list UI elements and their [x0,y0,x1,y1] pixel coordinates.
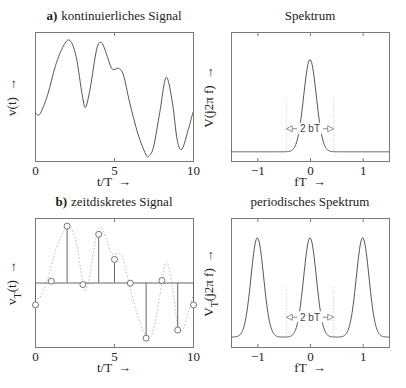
sample-marker [159,277,165,283]
arrowhead-left-icon [286,314,292,320]
sample-marker [33,302,39,308]
x-tick-label: −1 [251,349,265,364]
panel-title: periodisches Spektrum [251,194,370,209]
bandwidth-annotation: 2 bT [286,311,333,323]
sample-marker [143,335,149,341]
panel-spectrum: Spektrum 2 bT −101 fT→ V(j2π f)→ [201,8,390,189]
arrow-up-icon: → [4,78,19,91]
y-axis-label: v(t)→ [4,78,19,116]
annotation-text: 2 bT [300,123,320,134]
x-tick-label: 0 [32,163,39,178]
y-axis-label-arg: (t) [4,280,19,292]
signal-curve [35,40,193,157]
x-tick-label: 0 [32,349,39,364]
panel-title-text: kontinuierliches Signal [61,8,182,23]
arrow-right-icon: → [118,360,131,375]
arrowhead-right-icon [328,126,334,132]
sample-marker [191,302,197,308]
panel-label: a) [46,8,57,23]
arrow-right-icon: → [118,174,131,189]
x-tick-label: 1 [360,163,367,178]
x-tick-label: 1 [360,349,367,364]
y-axis-label: VT(j2π f)→ [201,249,220,316]
x-axis-label-text: t/T [97,360,112,375]
y-axis-label: vT(t)→ [4,261,23,305]
y-axis-label-text: v(t) [4,97,19,116]
arrow-up-icon: → [201,66,216,79]
annotation-text: 2 bT [300,312,320,323]
panel-title: b)zeitdiskretes Signal [55,194,172,209]
x-axis-label-text: fT [294,360,306,375]
panel-title: a)kontinuierliches Signal [46,8,181,23]
sample-marker [175,327,181,333]
x-axis-label-text: fT [294,174,306,189]
x-tick-label: 5 [111,349,118,364]
spectrum-curve [231,60,389,152]
panel-discrete-signal: b)zeitdiskretes Signal 0510 t/T→ vT(t)→ [4,194,200,375]
sample-marker [64,223,70,229]
plot-frame [232,33,390,162]
sample-marker [127,280,133,286]
plot-frame [36,33,194,162]
x-axis-label-text: t/T [97,174,112,189]
y-axis-label-arg: (j2π f) [201,268,216,301]
x-ticks: 0510 [32,219,200,364]
x-ticks: −101 [251,33,367,178]
sample-marker [80,282,86,288]
panel-title: Spektrum [285,8,336,23]
arrow-up-icon: → [4,261,19,274]
arrow-up-icon: → [201,249,216,262]
x-tick-label: 10 [187,349,200,364]
x-ticks: 0510 [32,33,200,178]
figure: a)kontinuierliches Signal 0510 t/T→ v(t)… [0,0,406,388]
arrow-right-icon: → [313,360,326,375]
arrow-right-icon: → [313,174,326,189]
x-tick-label: 5 [111,163,118,178]
x-tick-label: −1 [251,163,265,178]
sample-marker [48,278,54,284]
panel-title-text: zeitdiskretes Signal [71,194,173,209]
panel-continuous-signal: a)kontinuierliches Signal 0510 t/T→ v(t)… [4,8,200,189]
x-tick-label: 10 [187,163,200,178]
y-axis-label: V(j2π f)→ [201,66,216,127]
sample-marker [96,231,102,237]
panel-periodic-spectrum: periodisches Spektrum 2 bT −101 fT→ VT(j… [201,194,390,375]
panel-label: b) [55,194,67,209]
bandwidth-annotation: 2 bT [286,123,333,135]
arrowhead-right-icon [328,314,334,320]
arrowhead-left-icon [286,126,292,132]
y-axis-label-text: V(j2π f) [201,85,216,127]
sample-marker [112,256,118,262]
